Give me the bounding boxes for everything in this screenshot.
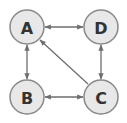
node-d: D	[84, 10, 118, 44]
node-c-label: C	[95, 89, 107, 108]
graph-diagram: A D B C	[0, 0, 127, 123]
node-d-label: D	[94, 19, 107, 38]
node-a-label: A	[21, 19, 34, 38]
node-a: A	[10, 10, 44, 44]
node-b-label: B	[21, 89, 33, 108]
node-b: B	[10, 80, 44, 114]
edge-c-a	[40, 40, 88, 84]
node-c: C	[84, 80, 118, 114]
